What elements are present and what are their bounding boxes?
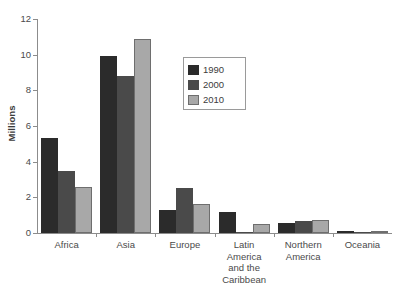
bar[interactable]	[134, 39, 151, 233]
bar-group	[215, 19, 274, 233]
bar[interactable]	[295, 221, 312, 233]
x-axis-separator	[215, 233, 216, 237]
legend-item[interactable]: 2010	[188, 92, 245, 107]
bar[interactable]	[354, 232, 371, 233]
x-axis-separator	[274, 233, 275, 237]
x-axis-separator	[155, 233, 156, 237]
bar-groups	[37, 19, 392, 233]
category-label-line: Europe	[155, 239, 214, 251]
y-axis-tick-label: 10	[3, 50, 31, 60]
x-axis-separator	[96, 233, 97, 237]
y-axis-tick-label: 8	[3, 86, 31, 96]
bar[interactable]	[193, 204, 210, 233]
bar-group	[96, 19, 155, 233]
legend-item[interactable]: 1990	[188, 62, 245, 77]
category-label-line: Northern	[274, 239, 333, 251]
category-label-line: and the	[215, 262, 274, 274]
legend-swatch-2000	[188, 80, 199, 90]
x-axis-category-label: Europe	[155, 239, 214, 251]
y-axis-tick-label: 2	[3, 193, 31, 203]
bar[interactable]	[253, 224, 270, 233]
legend-label: 2000	[203, 80, 224, 90]
bar[interactable]	[75, 187, 92, 233]
bar-chart: Millions 024681012 AfricaAsiaEuropeLatin…	[0, 0, 398, 292]
y-axis-tick-mark	[33, 233, 37, 234]
category-label-line: Latin	[215, 239, 274, 251]
y-axis-tick-label: 6	[3, 121, 31, 131]
category-label-line: America	[274, 251, 333, 263]
bar[interactable]	[117, 76, 134, 233]
x-axis-category-label: LatinAmericaand theCaribbean	[215, 239, 274, 285]
chart-legend: 199020002010	[183, 57, 246, 110]
bar-group	[37, 19, 96, 233]
plot-area: 024681012	[37, 19, 392, 233]
bar[interactable]	[159, 210, 176, 233]
x-axis-category-label: Asia	[96, 239, 155, 251]
legend-label: 2010	[203, 95, 224, 105]
bar[interactable]	[176, 188, 193, 233]
bar[interactable]	[312, 220, 329, 233]
bar-group	[274, 19, 333, 233]
bar-group	[155, 19, 214, 233]
legend-item[interactable]: 2000	[188, 77, 245, 92]
bar[interactable]	[41, 138, 58, 233]
category-label-line: America	[215, 251, 274, 263]
category-label-line: Oceania	[333, 239, 392, 251]
bar[interactable]	[58, 171, 75, 233]
y-axis-tick-label: 12	[3, 14, 31, 24]
bar-group	[333, 19, 392, 233]
y-axis-tick-label: 0	[3, 228, 31, 238]
bar[interactable]	[278, 223, 295, 233]
bar[interactable]	[219, 212, 236, 233]
y-axis-tick-label: 4	[3, 157, 31, 167]
x-axis-category-labels: AfricaAsiaEuropeLatinAmericaand theCarib…	[37, 239, 392, 292]
bar[interactable]	[371, 231, 388, 233]
legend-swatch-1990	[188, 65, 199, 75]
bar[interactable]	[100, 56, 117, 233]
x-axis-category-label: Africa	[37, 239, 96, 251]
x-axis-category-label: Oceania	[333, 239, 392, 251]
legend-label: 1990	[203, 65, 224, 75]
bar[interactable]	[236, 232, 253, 233]
category-label-line: Asia	[96, 239, 155, 251]
category-label-line: Caribbean	[215, 274, 274, 286]
x-axis-category-label: NorthernAmerica	[274, 239, 333, 262]
category-label-line: Africa	[37, 239, 96, 251]
legend-swatch-2010	[188, 95, 199, 105]
x-axis-separator	[333, 233, 334, 237]
bar[interactable]	[337, 231, 354, 233]
